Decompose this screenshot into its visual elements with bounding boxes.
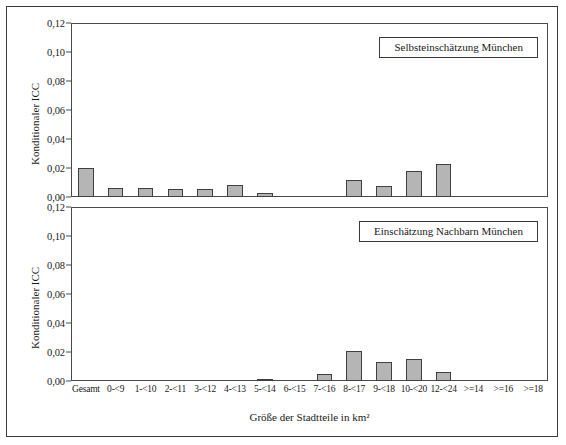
x-axis-tick-label: 1-<10: [135, 384, 157, 394]
bar: [197, 189, 213, 197]
x-axis-tick-labels: Gesamt0-<91-<102-<113-<124-<135-<146-<15…: [71, 384, 548, 400]
panel-legend-label-top: Selbsteinschätzung München: [394, 41, 523, 53]
y-axis-tick-label: 0,02: [47, 163, 65, 174]
y-axis-tick-label: 0,08: [47, 76, 65, 87]
bar: [406, 359, 422, 381]
chart-panel-bottom: 0,000,020,040,060,080,100,12 Einschätzun…: [71, 207, 548, 381]
figure-frame: 0,000,020,040,060,080,100,12 Selbsteinsc…: [6, 6, 558, 437]
y-axis-title-bottom: Konditionaler ICC: [29, 267, 41, 349]
bar: [436, 164, 452, 197]
y-axis-tick-label: 0,00: [47, 376, 65, 387]
bar: [346, 180, 362, 197]
bar: [138, 188, 154, 197]
x-axis-tick-label: Gesamt: [72, 384, 100, 394]
x-axis-tick-label: >=16: [494, 384, 513, 394]
y-axis-tick-label: 0,10: [47, 47, 65, 58]
x-axis-tick-label: 7-<16: [314, 384, 336, 394]
y-axis-tick-label: 0,08: [47, 260, 65, 271]
bar: [406, 171, 422, 197]
x-axis-tick-label: 0-<9: [107, 384, 124, 394]
y-axis-tick-label: 0,04: [47, 134, 65, 145]
bar: [78, 168, 94, 197]
bar: [376, 362, 392, 381]
panel-legend-top: Selbsteinschätzung München: [379, 37, 538, 58]
x-axis-tick-label: 9-<18: [373, 384, 395, 394]
x-axis-tick-label: 10-<20: [401, 384, 427, 394]
x-axis-title: Größe der Stadtteile in km²: [71, 411, 548, 423]
panel-legend-bottom: Einschätzung Nachbarn München: [359, 221, 538, 242]
x-axis-tick-label: >=14: [464, 384, 483, 394]
bar: [257, 379, 273, 381]
bar: [436, 372, 452, 381]
x-axis-tick-label: 6-<15: [284, 384, 306, 394]
x-axis-tick-label: >=18: [523, 384, 542, 394]
bar: [168, 189, 184, 197]
y-axis-tick-label: 0,06: [47, 105, 65, 116]
y-axis-tick-label: 0,10: [47, 231, 65, 242]
y-axis-title-top: Konditionaler ICC: [29, 83, 41, 165]
y-axis-tick-label: 0,06: [47, 289, 65, 300]
chart-panel-top: 0,000,020,040,060,080,100,12 Selbsteinsc…: [71, 23, 548, 197]
y-axis-tick-label: 0,12: [47, 202, 65, 213]
y-axis-tick-label: 0,04: [47, 318, 65, 329]
y-axis-tick-label: 0,02: [47, 347, 65, 358]
x-axis-tick-label: 3-<12: [194, 384, 216, 394]
x-axis-tick-label: 12-<24: [430, 384, 456, 394]
x-axis-tick-label: 4-<13: [224, 384, 246, 394]
panel-legend-label-bottom: Einschätzung Nachbarn München: [374, 225, 523, 237]
bar: [257, 193, 273, 197]
x-axis-tick-label: 8-<17: [343, 384, 365, 394]
bar: [227, 185, 243, 197]
bar: [108, 188, 124, 197]
bar: [346, 351, 362, 381]
bar: [317, 374, 333, 381]
x-axis-tick-label: 2-<11: [165, 384, 186, 394]
x-axis-tick-label: 5-<14: [254, 384, 276, 394]
bar: [376, 186, 392, 197]
y-axis-tick-label: 0,12: [47, 18, 65, 29]
